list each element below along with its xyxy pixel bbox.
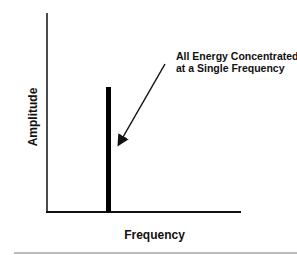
frequency-bar [106, 87, 111, 212]
spectrum-diagram [0, 0, 297, 255]
annotation-line-2: at a Single Frequency [176, 62, 297, 74]
annotation-arrow [119, 64, 165, 144]
annotation-text: All Energy Concentrated at a Single Freq… [176, 50, 297, 74]
y-axis-label: Amplitude [26, 72, 40, 162]
x-axis-label: Frequency [0, 228, 297, 242]
annotation-line-1: All Energy Concentrated [176, 50, 297, 62]
